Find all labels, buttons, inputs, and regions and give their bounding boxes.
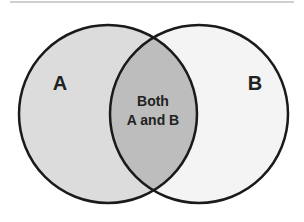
set-b-label: B bbox=[248, 72, 262, 94]
venn-diagram: A B Both A and B bbox=[0, 0, 304, 222]
set-a-label: A bbox=[53, 72, 67, 94]
intersection-label-line1: Both bbox=[137, 93, 169, 109]
intersection-label-line2: A and B bbox=[127, 112, 179, 128]
